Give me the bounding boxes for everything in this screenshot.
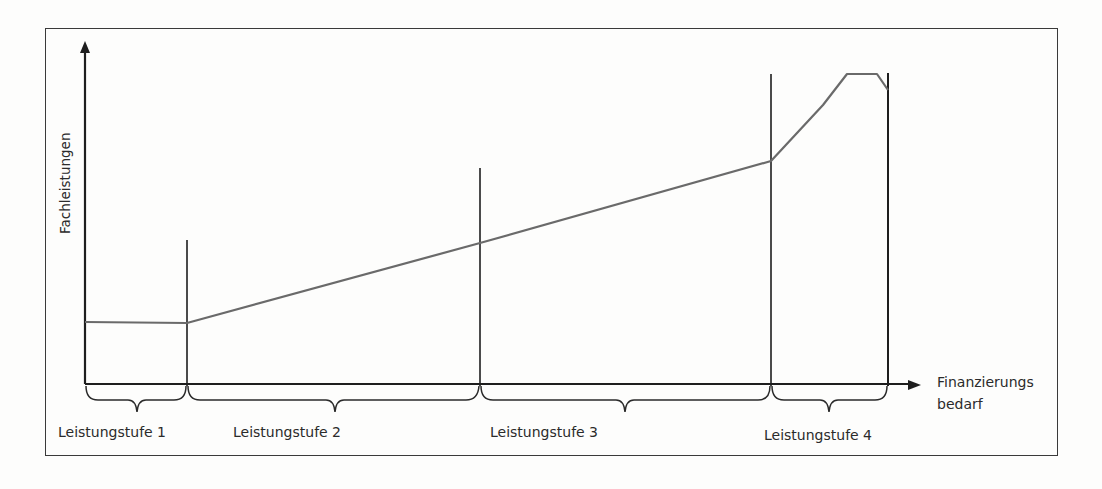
brace-stufe-2 (188, 386, 479, 412)
label-stufe-3: Leistungstufe 3 (490, 424, 598, 440)
x-axis-arrow-icon (908, 380, 921, 390)
label-stufe-2: Leistungstufe 2 (233, 424, 341, 440)
stage-dividers (187, 73, 888, 386)
brace-stufe-3 (481, 386, 770, 412)
y-axis-arrow-icon (80, 41, 90, 53)
x-axis-label-line1: Finanzierungs (937, 371, 1034, 393)
label-stufe-1: Leistungstufe 1 (58, 424, 166, 440)
diagram-canvas (0, 0, 1102, 489)
fachleistungen-curve (85, 74, 888, 323)
brace-stufe-1 (86, 386, 186, 412)
x-axis (85, 380, 921, 390)
y-axis-label: Fachleistungen (57, 133, 73, 234)
braces (86, 386, 887, 412)
y-axis (80, 41, 90, 384)
x-axis-label: Finanzierungs bedarf (937, 371, 1034, 415)
brace-stufe-4 (772, 386, 887, 412)
x-axis-label-line2: bedarf (937, 393, 1034, 415)
label-stufe-4: Leistungstufe 4 (764, 427, 872, 443)
